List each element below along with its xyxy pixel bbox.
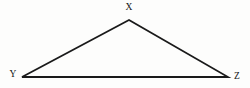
geometry-figure-canvas: X Y Z	[0, 0, 250, 88]
triangle-diagram-svg: X Y Z	[0, 0, 250, 88]
vertex-label-x: X	[126, 2, 133, 12]
vertex-label-y: Y	[10, 69, 17, 79]
vertex-label-z: Z	[234, 71, 240, 81]
triangle-xyz-outline	[22, 20, 228, 77]
